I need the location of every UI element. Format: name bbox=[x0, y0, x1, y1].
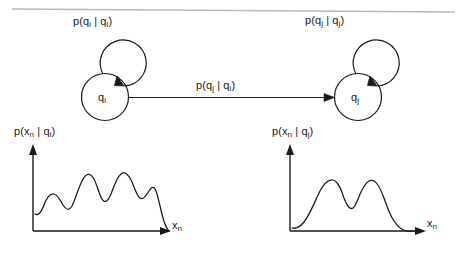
density-plot-qi bbox=[29, 144, 171, 235]
scan-rule-line bbox=[12, 9, 455, 12]
density-curve-qi bbox=[35, 173, 169, 231]
y-axis-arrowhead-qi bbox=[29, 144, 37, 155]
hmm-state-diagram-figure bbox=[0, 0, 462, 253]
density-plot-qj bbox=[286, 144, 426, 235]
self-loop-label-qj: p(qj | qj) bbox=[305, 15, 344, 26]
transition-arrowhead bbox=[324, 94, 335, 102]
state-label-qj: qj bbox=[351, 92, 359, 103]
y-axis-label-qj: p(xn | qj) bbox=[272, 126, 313, 137]
density-curve-qj bbox=[292, 180, 414, 231]
x-axis-arrowhead-qj bbox=[415, 227, 426, 235]
y-axis-arrowhead-qj bbox=[286, 144, 294, 155]
self-loop-label-qi: p(qi | qi) bbox=[73, 16, 112, 27]
y-axis-label-qi: p(xn | qi) bbox=[14, 126, 55, 137]
transition-arrow-qi-qj bbox=[129, 94, 335, 102]
x-axis-label-qi: xn bbox=[172, 220, 182, 231]
state-label-qi: qi bbox=[98, 92, 106, 103]
transition-label: p(qj | qi) bbox=[196, 80, 235, 91]
x-axis-label-qj: xn bbox=[427, 218, 437, 229]
